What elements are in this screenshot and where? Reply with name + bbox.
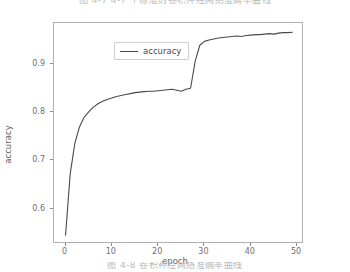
y-tick-mark [50, 159, 53, 160]
y-tick-mark [50, 208, 53, 209]
caption-bottom-cropped: 图 4-8 卷积神经网络准确率曲线 [0, 262, 350, 272]
y-tick-mark [50, 111, 53, 112]
y-tick-label: 0.8 [32, 106, 45, 115]
x-tick-label: 10 [106, 247, 116, 256]
x-tick-label: 50 [291, 247, 301, 256]
plot-axes: accuracy [53, 22, 303, 243]
legend-line-swatch [120, 51, 138, 52]
caption-bottom-text: 图 4-8 卷积神经网络准确率曲线 [107, 262, 242, 270]
y-tick-label: 0.7 [32, 155, 45, 164]
y-tick-label: 0.6 [32, 203, 45, 212]
x-tick-label: 40 [245, 247, 255, 256]
chart-figure: accuracy accuracy 01020304050 0.60.70.80… [0, 10, 350, 260]
figure-screenshot: 图 4-7 4-7 个标准的卷积神经网络准确率曲线 accuracy accur… [0, 0, 350, 272]
caption-top-text: 图 4-7 4-7 个标准的卷积神经网络准确率曲线 [79, 0, 271, 5]
x-tick-mark [111, 243, 112, 246]
x-tick-label: 20 [152, 247, 162, 256]
x-tick-mark [203, 243, 204, 246]
chart-legend: accuracy [114, 42, 189, 60]
y-axis-label: accuracy [2, 34, 14, 255]
x-tick-mark [250, 243, 251, 246]
x-tick-mark [157, 243, 158, 246]
x-tick-mark [296, 243, 297, 246]
y-axis-label-container: accuracy [0, 22, 14, 243]
x-tick-label: 30 [198, 247, 208, 256]
caption-top-cropped: 图 4-7 4-7 个标准的卷积神经网络准确率曲线 [0, 0, 350, 9]
y-tick-mark [50, 63, 53, 64]
x-tick-mark [65, 243, 66, 246]
legend-label-accuracy: accuracy [143, 46, 181, 56]
x-tick-label: 0 [62, 247, 67, 256]
y-tick-label: 0.9 [32, 58, 45, 67]
